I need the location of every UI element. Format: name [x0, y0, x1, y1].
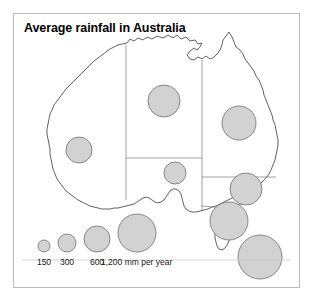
rainfall-bubble-victoria: [210, 202, 248, 240]
legend-label-300: 300: [53, 257, 81, 267]
legend-bubble-300: [58, 234, 76, 252]
rainfall-bubble-northern-territory: [148, 85, 180, 117]
rainfall-bubble-queensland: [222, 106, 256, 140]
legend-bubbles: [38, 214, 156, 252]
legend-bubble-150: [38, 240, 50, 252]
rainfall-bubble-south-australia: [164, 162, 186, 184]
rainfall-bubble-western-australia: [66, 137, 92, 163]
figure-panel: Average rainfall in Australia 1503006001…: [13, 13, 300, 288]
australia-rainfall-map: [14, 14, 299, 287]
legend-bubble-600: [84, 226, 110, 252]
rainfall-bubble-tasmania: [238, 235, 282, 279]
rainfall-bubble-new-south-wales: [230, 173, 262, 205]
legend-label-1200: 1,200 mm per year: [101, 257, 172, 267]
legend-bubble-1200: [118, 214, 156, 252]
